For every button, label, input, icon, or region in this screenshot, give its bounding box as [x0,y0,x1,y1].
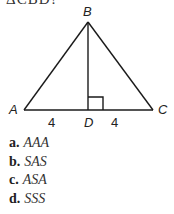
option-letter: d. [9,191,20,206]
option-letter: b. [9,154,20,169]
segment-label-dc: 4 [111,115,118,130]
option-letter: c. [9,172,19,187]
option-b[interactable]: b.SAS [9,153,49,172]
option-c[interactable]: c.ASA [9,171,49,190]
option-answer: SSS [24,191,45,206]
vertex-label-d: D [84,115,93,130]
option-letter: a. [9,135,20,150]
triangle-diagram: B A C D 4 4 [0,0,174,134]
option-answer: AAA [24,135,50,150]
option-d[interactable]: d.SSS [9,190,49,209]
option-answer: ASA [23,172,47,187]
option-a[interactable]: a.AAA [9,134,49,153]
vertex-label-c: C [158,102,168,117]
vertex-label-a: A [8,102,18,117]
answer-options: a.AAA b.SAS c.ASA d.SSS [9,134,49,208]
vertex-label-b: B [83,4,92,19]
option-answer: SAS [24,154,47,169]
right-angle-marker [88,97,103,110]
segment-ab [24,22,88,110]
segment-label-ad: 4 [48,115,55,130]
